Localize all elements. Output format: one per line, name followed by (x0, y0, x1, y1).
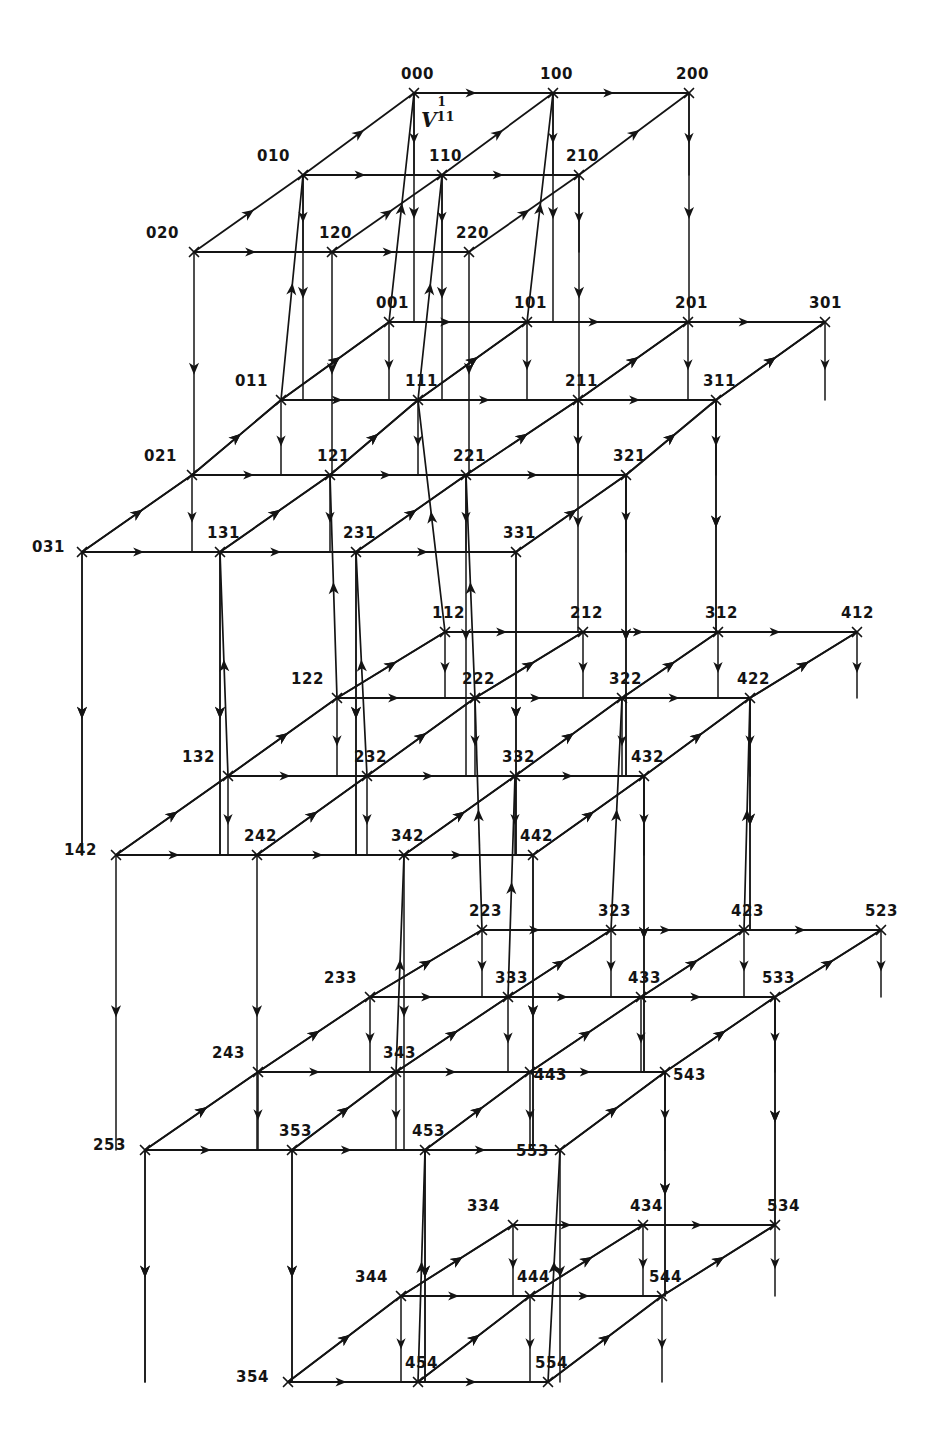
node-label-553: 553 (516, 1144, 549, 1159)
node-label-001: 001 (376, 296, 409, 311)
node-label-010: 010 (257, 149, 290, 164)
node-label-454: 454 (405, 1356, 438, 1371)
diagram-canvas: 0001002000101102100201202200011012013010… (0, 0, 928, 1444)
node-label-223: 223 (469, 904, 502, 919)
node-label-121: 121 (317, 449, 350, 464)
lattice-edges (0, 0, 928, 1444)
node-label-321: 321 (613, 449, 646, 464)
node-label-434: 434 (630, 1199, 663, 1214)
node-label-444: 444 (517, 1270, 550, 1285)
node-label-031: 031 (32, 540, 65, 555)
node-label-423: 423 (731, 904, 764, 919)
node-label-111: 111 (405, 374, 438, 389)
node-label-554: 554 (535, 1356, 568, 1371)
node-label-201: 201 (675, 296, 708, 311)
node-label-332: 332 (502, 750, 535, 765)
node-label-211: 211 (565, 374, 598, 389)
node-label-342: 342 (391, 829, 424, 844)
node-label-232: 232 (354, 750, 387, 765)
node-label-112: 112 (432, 606, 465, 621)
v11-annotation-label: V111 (421, 104, 455, 130)
node-label-132: 132 (182, 750, 215, 765)
node-label-354: 354 (236, 1370, 269, 1385)
node-label-343: 343 (383, 1046, 416, 1061)
node-label-523: 523 (865, 904, 898, 919)
node-label-200: 200 (676, 67, 709, 82)
node-label-221: 221 (453, 449, 486, 464)
node-label-422: 422 (737, 672, 770, 687)
node-label-322: 322 (609, 672, 642, 687)
node-label-333: 333 (495, 971, 528, 986)
node-label-543: 543 (673, 1068, 706, 1083)
node-label-312: 312 (705, 606, 738, 621)
node-label-432: 432 (631, 750, 664, 765)
node-label-020: 020 (146, 226, 179, 241)
node-label-433: 433 (628, 971, 661, 986)
node-label-011: 011 (235, 374, 268, 389)
node-label-334: 334 (467, 1199, 500, 1214)
v-annotation-superscript: 1 (438, 96, 456, 108)
node-label-101: 101 (514, 296, 547, 311)
v-annotation-base: V (421, 108, 437, 132)
node-label-412: 412 (841, 606, 874, 621)
node-label-331: 331 (503, 526, 536, 541)
v-annotation-subscript: 11 (437, 110, 455, 123)
node-label-453: 453 (412, 1124, 445, 1139)
node-label-021: 021 (144, 449, 177, 464)
node-label-142: 142 (64, 843, 97, 858)
node-label-220: 220 (456, 226, 489, 241)
node-label-323: 323 (598, 904, 631, 919)
node-label-120: 120 (319, 226, 352, 241)
node-label-131: 131 (207, 526, 240, 541)
node-label-311: 311 (703, 374, 736, 389)
node-label-110: 110 (429, 149, 462, 164)
node-label-442: 442 (520, 829, 553, 844)
node-label-222: 222 (462, 672, 495, 687)
node-label-000: 000 (401, 67, 434, 82)
node-label-122: 122 (291, 672, 324, 687)
node-label-242: 242 (244, 829, 277, 844)
node-label-353: 353 (279, 1124, 312, 1139)
node-label-301: 301 (809, 296, 842, 311)
node-label-533: 533 (762, 971, 795, 986)
node-label-233: 233 (324, 971, 357, 986)
node-label-231: 231 (343, 526, 376, 541)
node-label-534: 534 (767, 1199, 800, 1214)
node-label-344: 344 (355, 1270, 388, 1285)
node-label-443: 443 (534, 1068, 567, 1083)
node-label-212: 212 (570, 606, 603, 621)
node-label-253: 253 (93, 1138, 126, 1153)
node-label-243: 243 (212, 1046, 245, 1061)
node-label-544: 544 (649, 1270, 682, 1285)
node-label-210: 210 (566, 149, 599, 164)
node-label-100: 100 (540, 67, 573, 82)
